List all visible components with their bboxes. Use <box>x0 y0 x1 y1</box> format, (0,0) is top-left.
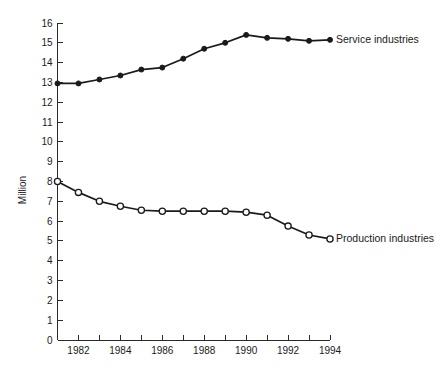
data-point <box>118 73 123 78</box>
data-point <box>54 178 60 184</box>
y-tick-label-10: 10 <box>41 136 53 147</box>
y-tick-label-12: 12 <box>41 97 53 108</box>
data-point <box>265 35 270 40</box>
data-point <box>180 208 186 214</box>
x-tick-label-1988: 1988 <box>193 345 216 356</box>
y-tick-label-5: 5 <box>47 235 53 246</box>
data-point <box>223 40 228 45</box>
y-tick-label-14: 14 <box>41 57 53 68</box>
line-chart: 012345678910111213141516 Million 1982198… <box>0 0 442 380</box>
series-path <box>58 35 331 84</box>
data-point <box>328 37 333 42</box>
data-point <box>327 236 333 242</box>
data-point <box>306 232 312 238</box>
x-tick-label-1984: 1984 <box>109 345 132 356</box>
series-label-service-industries: Service industries <box>336 33 419 45</box>
data-point <box>96 198 102 204</box>
x-tick-label-1986: 1986 <box>151 345 174 356</box>
y-tick-label-16: 16 <box>41 18 53 29</box>
data-point <box>307 38 312 43</box>
data-point <box>76 81 81 86</box>
data-point <box>160 65 165 70</box>
data-point <box>97 77 102 82</box>
x-tick-label-1994: 1994 <box>319 345 342 356</box>
data-point <box>222 208 228 214</box>
y-tick-label-7: 7 <box>47 196 53 207</box>
data-point <box>202 46 207 51</box>
data-point <box>243 209 249 215</box>
chart-canvas: 012345678910111213141516 Million 1982198… <box>0 0 442 380</box>
y-tick-label-15: 15 <box>41 37 53 48</box>
data-point <box>201 208 207 214</box>
data-point <box>139 67 144 72</box>
series-label-production-industries: Production industries <box>336 232 434 244</box>
y-tick-label-2: 2 <box>47 295 53 306</box>
data-point <box>117 203 123 209</box>
data-point <box>286 36 291 41</box>
data-point <box>159 208 165 214</box>
x-axis-group: 1982198419861988199019921994 <box>58 335 342 357</box>
series-labels: Service industriesProduction industries <box>336 33 434 244</box>
y-tick-label-6: 6 <box>47 216 53 227</box>
data-point <box>181 56 186 61</box>
series-path <box>58 182 331 239</box>
y-tick-label-8: 8 <box>47 176 53 187</box>
y-tick-label-0: 0 <box>47 335 53 346</box>
y-tick-label-4: 4 <box>47 255 53 266</box>
data-point <box>75 189 81 195</box>
y-tick-label-13: 13 <box>41 77 53 88</box>
data-point <box>285 223 291 229</box>
x-tick-label-1992: 1992 <box>277 345 300 356</box>
x-tick-label-1990: 1990 <box>235 345 258 356</box>
data-point <box>264 212 270 218</box>
x-tick-label-1982: 1982 <box>67 345 90 356</box>
y-tick-label-11: 11 <box>42 117 53 128</box>
series-production-industries <box>54 178 333 242</box>
data-point <box>244 32 249 37</box>
y-axis-title: Million <box>17 176 28 204</box>
y-tick-label-3: 3 <box>47 275 53 286</box>
series-service-industries <box>55 32 333 86</box>
y-tick-label-9: 9 <box>47 156 53 167</box>
data-point <box>138 207 144 213</box>
data-point <box>55 81 60 86</box>
x-axis-ticks: 1982198419861988199019921994 <box>58 335 342 357</box>
y-tick-label-1: 1 <box>47 315 53 326</box>
series-layer <box>54 32 333 242</box>
